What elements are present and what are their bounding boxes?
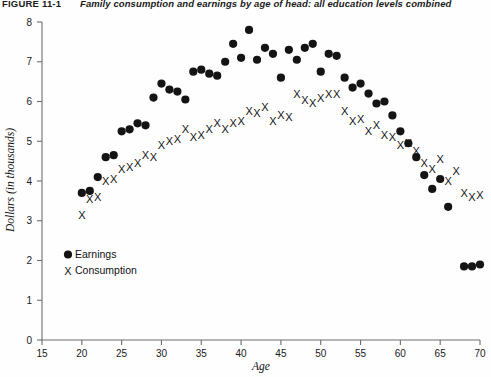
data-point: X bbox=[126, 161, 134, 173]
data-point bbox=[436, 175, 444, 183]
data-point bbox=[189, 68, 197, 76]
x-axis-tick-label: 70 bbox=[474, 348, 486, 359]
data-point bbox=[245, 26, 253, 34]
data-point bbox=[213, 72, 221, 80]
data-point: X bbox=[78, 209, 86, 221]
data-point: X bbox=[365, 125, 373, 137]
legend-label: Consumption bbox=[75, 264, 137, 276]
data-point: X bbox=[245, 105, 253, 117]
y-axis-tick-label: 0 bbox=[26, 335, 32, 346]
x-axis-tick-label: 45 bbox=[275, 348, 287, 359]
data-point bbox=[396, 127, 404, 135]
data-point bbox=[301, 44, 309, 52]
data-point bbox=[428, 185, 436, 193]
data-point: X bbox=[437, 153, 445, 165]
data-point: X bbox=[229, 117, 237, 129]
data-point: X bbox=[158, 139, 166, 151]
legend-label: Earnings bbox=[75, 248, 116, 260]
figure-root: FIGURE 11-1 Family consumption and earni… bbox=[0, 0, 491, 377]
data-point bbox=[141, 121, 149, 129]
data-point bbox=[157, 80, 165, 88]
data-point: X bbox=[373, 119, 381, 131]
data-point bbox=[309, 40, 317, 48]
data-point: X bbox=[293, 88, 301, 100]
data-point bbox=[261, 44, 269, 52]
data-point bbox=[94, 173, 102, 181]
data-point bbox=[205, 70, 213, 78]
data-point bbox=[364, 89, 372, 97]
data-point: X bbox=[301, 94, 309, 106]
y-axis-tick-label: 8 bbox=[26, 17, 32, 28]
data-point bbox=[380, 97, 388, 105]
data-point bbox=[78, 189, 86, 197]
x-axis-tick-label: 25 bbox=[116, 348, 128, 359]
data-point: X bbox=[357, 113, 365, 125]
data-point: X bbox=[444, 175, 452, 187]
data-point bbox=[173, 87, 181, 95]
data-point bbox=[181, 95, 189, 103]
data-point: X bbox=[341, 105, 349, 117]
data-point: X bbox=[198, 129, 206, 141]
y-axis-tick-label: 3 bbox=[26, 215, 32, 226]
x-axis-tick-label: 30 bbox=[156, 348, 168, 359]
y-axis-title: Dollars (in thousands) bbox=[4, 128, 17, 233]
data-point bbox=[341, 74, 349, 82]
data-point bbox=[277, 74, 285, 82]
data-point: X bbox=[142, 149, 150, 161]
data-point: X bbox=[190, 131, 198, 143]
data-point: X bbox=[118, 163, 126, 175]
x-axis-tick-label: 40 bbox=[236, 348, 248, 359]
x-axis-tick-label: 55 bbox=[355, 348, 367, 359]
data-point: X bbox=[389, 131, 397, 143]
y-axis-tick-label: 7 bbox=[26, 56, 32, 67]
data-point bbox=[348, 83, 356, 91]
data-point: X bbox=[460, 187, 468, 199]
data-point: X bbox=[237, 115, 245, 127]
data-point: X bbox=[333, 88, 341, 100]
data-point bbox=[356, 80, 364, 88]
data-point: X bbox=[182, 123, 190, 135]
data-point bbox=[118, 127, 126, 135]
x-axis-title: Age bbox=[251, 360, 270, 373]
data-point: X bbox=[253, 107, 261, 119]
x-axis-tick-label: 15 bbox=[36, 348, 48, 359]
data-point: X bbox=[349, 115, 357, 127]
x-axis-tick-label: 20 bbox=[76, 348, 88, 359]
data-point: X bbox=[110, 173, 118, 185]
data-point: X bbox=[325, 88, 333, 100]
data-point: X bbox=[206, 123, 214, 135]
legend-marker-earnings bbox=[64, 250, 72, 258]
data-point bbox=[468, 262, 476, 270]
data-point bbox=[149, 93, 157, 101]
data-point: X bbox=[285, 111, 293, 123]
data-point: X bbox=[381, 129, 389, 141]
data-point: X bbox=[269, 115, 277, 127]
y-axis-tick-label: 4 bbox=[26, 176, 32, 187]
legend-marker-consumption: X bbox=[64, 265, 72, 277]
data-point: X bbox=[468, 191, 476, 203]
chart-legend: EarningsXConsumption bbox=[64, 248, 137, 277]
data-point bbox=[253, 56, 261, 64]
data-point bbox=[221, 58, 229, 66]
data-point bbox=[229, 40, 237, 48]
y-axis-tick-label: 2 bbox=[26, 255, 32, 266]
data-point bbox=[126, 125, 134, 133]
series-earnings bbox=[78, 26, 484, 271]
data-point bbox=[325, 50, 333, 58]
data-point bbox=[285, 46, 293, 54]
y-axis-tick-label: 1 bbox=[26, 295, 32, 306]
data-point: X bbox=[166, 135, 174, 147]
data-series-group: XXXXXXXXXXXXXXXXXXXXXXXXXXXXXXXXXXXXXXXX… bbox=[78, 26, 485, 271]
data-point: X bbox=[134, 157, 142, 169]
data-point bbox=[237, 54, 245, 62]
data-point bbox=[317, 68, 325, 76]
data-point: X bbox=[174, 133, 182, 145]
data-point bbox=[333, 52, 341, 60]
data-point: X bbox=[94, 191, 102, 203]
data-point: X bbox=[86, 193, 94, 205]
data-point: X bbox=[317, 92, 325, 104]
scatter-chart: 012345678152025303540455055606570 XXXXXX… bbox=[0, 0, 491, 377]
data-point: X bbox=[452, 165, 460, 177]
data-point bbox=[165, 85, 173, 93]
data-point: X bbox=[277, 109, 285, 121]
